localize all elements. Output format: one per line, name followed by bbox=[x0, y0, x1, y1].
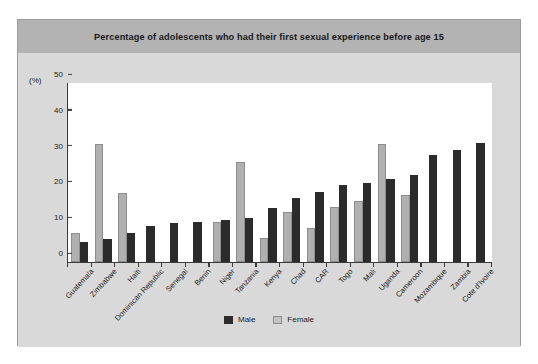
bar-group bbox=[421, 83, 445, 262]
bar-male bbox=[453, 150, 462, 262]
legend-swatch-male-icon bbox=[224, 316, 233, 324]
x-axis-label: Kenya bbox=[262, 267, 283, 289]
bar-female bbox=[71, 233, 80, 262]
bar-female bbox=[260, 238, 269, 262]
y-axis-unit-label: (%) bbox=[29, 76, 41, 85]
bar-male bbox=[245, 218, 254, 262]
bar-male bbox=[363, 183, 372, 262]
bar-group bbox=[327, 83, 351, 262]
bar-male bbox=[193, 222, 202, 262]
bar-group bbox=[257, 83, 281, 262]
bar-male bbox=[103, 239, 112, 262]
bar-group bbox=[139, 83, 163, 262]
bar-group bbox=[233, 83, 257, 262]
legend-label-male: Male bbox=[238, 315, 255, 324]
chart-card: Percentage of adolescents who had their … bbox=[17, 19, 521, 346]
bar-female bbox=[283, 212, 292, 262]
bar-group bbox=[374, 83, 398, 262]
chart-legend: Male Female bbox=[18, 315, 520, 324]
x-axis-label: Benin bbox=[193, 267, 213, 287]
x-axis-label: Togo bbox=[337, 267, 355, 285]
plot-area: (%) 01020304050 GuatemalaZimbabweHaitiDo… bbox=[18, 53, 520, 347]
x-axis-label: Chad bbox=[288, 267, 307, 286]
bar-male bbox=[127, 233, 136, 262]
bar-female bbox=[354, 201, 363, 262]
y-axis-tick: 50 bbox=[54, 70, 68, 79]
chart-screenshot: Percentage of adolescents who had their … bbox=[0, 0, 538, 364]
bar-series-container bbox=[68, 83, 492, 262]
y-axis-tick: 10 bbox=[54, 213, 68, 222]
bar-male bbox=[146, 226, 155, 262]
bar-female bbox=[378, 144, 387, 262]
bar-group bbox=[115, 83, 139, 262]
x-axis-label: Senegal bbox=[164, 267, 190, 294]
bar-male bbox=[429, 155, 438, 262]
bar-female bbox=[118, 193, 127, 262]
legend-swatch-female-icon bbox=[273, 316, 282, 324]
bar-male bbox=[80, 242, 89, 262]
x-axis-tick bbox=[491, 262, 492, 267]
bar-female bbox=[95, 144, 104, 262]
legend-item-male: Male bbox=[224, 315, 255, 324]
y-axis-tick: 40 bbox=[54, 105, 68, 114]
x-axis-label: Mali bbox=[362, 267, 378, 283]
bar-female bbox=[307, 228, 316, 262]
bar-group bbox=[445, 83, 469, 262]
bar-male bbox=[410, 175, 419, 262]
bar-group bbox=[280, 83, 304, 262]
bar-group bbox=[162, 83, 186, 262]
bar-group bbox=[186, 83, 210, 262]
bar-male bbox=[315, 192, 324, 262]
bar-male bbox=[221, 220, 230, 262]
bar-female bbox=[330, 207, 339, 262]
bar-male bbox=[268, 208, 277, 262]
bar-group bbox=[92, 83, 116, 262]
y-axis-tick: 20 bbox=[54, 177, 68, 186]
legend-label-female: Female bbox=[287, 315, 314, 324]
bar-group bbox=[351, 83, 375, 262]
plot-canvas: 01020304050 bbox=[67, 83, 492, 263]
legend-item-female: Female bbox=[273, 315, 314, 324]
bar-male bbox=[386, 179, 395, 262]
bar-female bbox=[213, 222, 222, 262]
chart-title-band: Percentage of adolescents who had their … bbox=[18, 20, 520, 53]
bar-female bbox=[236, 162, 245, 262]
bar-male bbox=[292, 198, 301, 262]
bar-male bbox=[170, 223, 179, 262]
y-axis-tick: 30 bbox=[54, 141, 68, 150]
bar-group bbox=[209, 83, 233, 262]
bar-female bbox=[401, 195, 410, 262]
y-axis-tick: 0 bbox=[59, 249, 68, 258]
x-axis-labels: GuatemalaZimbabweHaitiDominican Republic… bbox=[67, 267, 491, 343]
bar-group bbox=[304, 83, 328, 262]
bar-group bbox=[469, 83, 493, 262]
x-axis-label: Tanzania bbox=[233, 267, 260, 295]
bar-male bbox=[339, 185, 348, 262]
bar-male bbox=[476, 143, 485, 262]
x-axis-label: CAR bbox=[313, 267, 331, 285]
x-axis-label: Haiti bbox=[125, 267, 142, 284]
x-axis-label: Niger bbox=[218, 267, 237, 286]
page-title: Percentage of adolescents who had their … bbox=[94, 32, 444, 42]
bar-group bbox=[398, 83, 422, 262]
